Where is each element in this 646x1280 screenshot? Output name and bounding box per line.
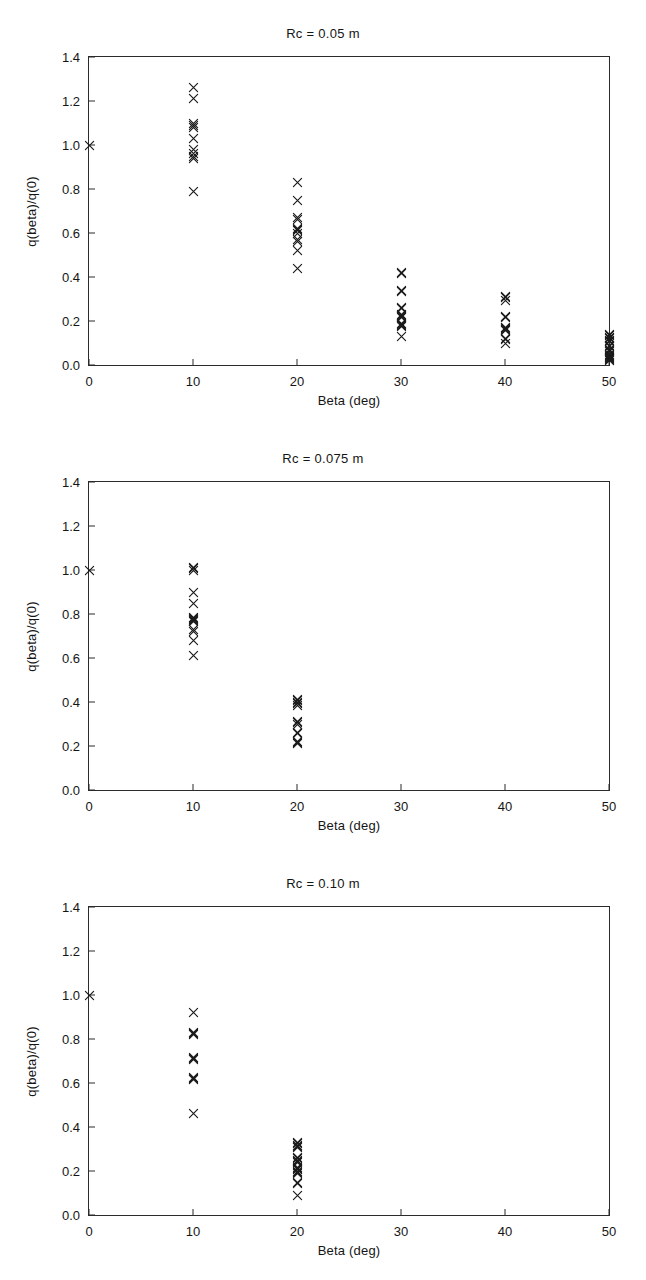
- y-tick-mark: [89, 145, 95, 146]
- data-point-marker: [188, 626, 199, 637]
- data-point-marker: [500, 323, 511, 334]
- x-tick-label: 50: [602, 374, 616, 389]
- data-point-marker: [292, 223, 303, 234]
- y-tick-label: 1.2: [62, 519, 80, 534]
- x-tick-mark: [505, 784, 506, 790]
- y-tick-mark: [89, 951, 95, 952]
- data-point-marker: [396, 303, 407, 314]
- x-tick-label: 0: [85, 799, 92, 814]
- data-point-marker: [292, 728, 303, 739]
- y-tick-label: 0.8: [62, 607, 80, 622]
- y-tick-label: 0.2: [62, 1164, 80, 1179]
- data-point-marker: [188, 118, 199, 129]
- data-point-marker: [292, 1153, 303, 1164]
- x-tick-label: 30: [394, 374, 408, 389]
- y-tick-mark: [89, 321, 95, 322]
- data-point-marker: [396, 331, 407, 342]
- y-tick-label: 1.0: [62, 563, 80, 578]
- data-point-marker: [188, 1028, 199, 1039]
- x-tick-label: 40: [498, 1224, 512, 1239]
- x-tick-mark: [89, 1209, 90, 1215]
- x-tick-mark: [193, 784, 194, 790]
- data-point-marker: [188, 186, 199, 197]
- data-point-marker: [188, 144, 199, 155]
- data-point-marker: [188, 1029, 199, 1040]
- data-point-marker: [188, 93, 199, 104]
- data-point-marker: [604, 330, 615, 341]
- y-tick-label: 0.0: [62, 1208, 80, 1223]
- data-point-marker: [292, 1167, 303, 1178]
- data-point-marker: [500, 311, 511, 322]
- y-tick-label: 0.8: [62, 182, 80, 197]
- data-point-marker: [604, 335, 615, 346]
- y-tick-mark: [89, 189, 95, 190]
- data-point-marker: [188, 1052, 199, 1063]
- y-axis-label: q(beta)/q(0): [22, 906, 40, 1216]
- data-point-marker: [396, 302, 407, 313]
- data-point-marker: [292, 177, 303, 188]
- x-tick-mark: [505, 359, 506, 365]
- data-point-marker: [396, 318, 407, 329]
- y-tick-label: 1.4: [62, 50, 80, 65]
- panel-title: Rc = 0.05 m: [0, 26, 646, 41]
- data-point-marker: [188, 563, 199, 574]
- x-tick-mark: [297, 784, 298, 790]
- data-point-marker: [396, 285, 407, 296]
- data-point-marker: [292, 263, 303, 274]
- data-point-marker: [500, 338, 511, 349]
- y-tick-label: 1.4: [62, 475, 80, 490]
- data-point-marker: [188, 598, 199, 609]
- y-tick-mark: [89, 365, 95, 366]
- data-point-marker: [292, 1152, 303, 1163]
- y-tick-mark: [89, 614, 95, 615]
- data-point-marker: [188, 616, 199, 627]
- data-point-marker: [604, 346, 615, 357]
- data-point-marker: [292, 1155, 303, 1166]
- data-point-marker: [292, 695, 303, 706]
- data-point-marker: [292, 698, 303, 709]
- y-tick-label: 0.4: [62, 695, 80, 710]
- y-tick-label: 1.4: [62, 900, 80, 915]
- x-tick-label: 40: [498, 374, 512, 389]
- data-point-marker: [188, 153, 199, 164]
- data-point-marker: [292, 1157, 303, 1168]
- data-point-marker: [188, 151, 199, 162]
- data-point-marker: [188, 120, 199, 131]
- x-tick-label: 20: [290, 1224, 304, 1239]
- y-tick-mark: [89, 907, 95, 908]
- panel-title: Rc = 0.10 m: [0, 876, 646, 891]
- data-point-marker: [292, 697, 303, 708]
- chart-panel: Rc = 0.05 m q(beta)/q(0) 0.00.20.40.60.8…: [0, 0, 646, 425]
- x-tick-mark: [89, 784, 90, 790]
- x-tick-label: 30: [394, 1224, 408, 1239]
- y-axis-label: q(beta)/q(0): [22, 56, 40, 366]
- y-axis-label: q(beta)/q(0): [22, 481, 40, 791]
- y-tick-label: 1.2: [62, 94, 80, 109]
- data-point-marker: [188, 1072, 199, 1083]
- data-point-marker: [604, 345, 615, 356]
- y-axis-label-text: q(beta)/q(0): [24, 176, 39, 246]
- x-tick-mark: [505, 1209, 506, 1215]
- data-point-marker: [188, 650, 199, 661]
- x-tick-mark: [609, 1209, 610, 1215]
- y-tick-label: 0.0: [62, 358, 80, 373]
- y-tick-label: 0.6: [62, 226, 80, 241]
- data-point-marker: [292, 234, 303, 245]
- data-point-marker: [292, 1178, 303, 1189]
- x-tick-label: 10: [186, 799, 200, 814]
- x-tick-mark: [609, 359, 610, 365]
- data-point-marker: [188, 1054, 199, 1065]
- data-point-marker: [188, 82, 199, 93]
- y-tick-mark: [89, 233, 95, 234]
- x-tick-mark: [609, 784, 610, 790]
- y-axis-label-text: q(beta)/q(0): [24, 1026, 39, 1096]
- data-point-marker: [292, 1168, 303, 1179]
- data-point-marker: [188, 635, 199, 646]
- y-axis-label-text: q(beta)/q(0): [24, 601, 39, 671]
- data-point-marker: [188, 1108, 199, 1119]
- data-point-marker: [604, 341, 615, 352]
- data-point-marker: [292, 700, 303, 711]
- data-point-marker: [500, 295, 511, 306]
- y-tick-mark: [89, 702, 95, 703]
- x-tick-mark: [297, 359, 298, 365]
